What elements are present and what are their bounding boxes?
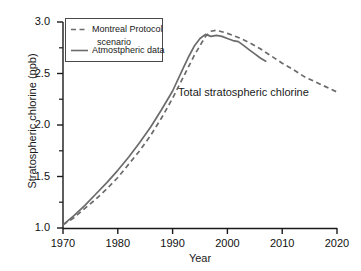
y-axis-title: Stratospheric chlorine (ppb) — [26, 26, 38, 216]
chart-container: 1.0 1.5 2.0 2.5 3.0 1970 1980 1990 2000 … — [0, 0, 361, 271]
legend-label-atmospheric-data: Atmostpheric data — [92, 45, 165, 55]
legend-swatch-solid-icon — [71, 46, 88, 53]
plot-area — [0, 0, 361, 271]
x-tick-label-2020: 2020 — [317, 237, 357, 249]
x-tick-label-1980: 1980 — [98, 237, 138, 249]
x-tick-label-2010: 2010 — [262, 237, 302, 249]
plot-annotation-total-stratospheric-chlorine: Total stratospheric chlorine — [178, 86, 309, 98]
legend-swatch-dashed-icon — [71, 25, 88, 32]
series-line-atmospheric-data — [63, 34, 266, 225]
y-axis-major-ticks — [57, 22, 63, 228]
x-axis-title: Year — [63, 252, 337, 264]
legend-item-atmospheric-data: Atmostpheric data — [71, 44, 165, 55]
y-tick-label-1-0: 1.0 — [20, 221, 50, 233]
legend: Montreal Protocol scenario Atmostpheric … — [65, 18, 163, 62]
x-tick-label-1990: 1990 — [153, 237, 193, 249]
legend-label-montreal-protocol-scenario-line1: Montreal Protocol — [92, 24, 163, 34]
x-tick-label-2000: 2000 — [207, 237, 247, 249]
x-tick-label-1970: 1970 — [43, 237, 83, 249]
legend-item-montreal-protocol-scenario: Montreal Protocol scenario — [71, 23, 163, 34]
